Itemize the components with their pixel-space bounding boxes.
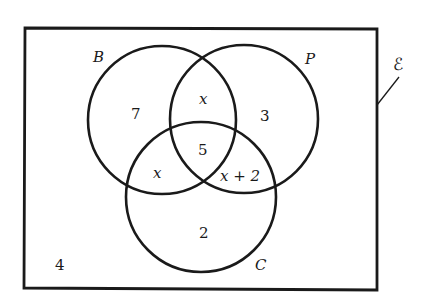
region-b-only: 7 [131, 105, 141, 123]
set-b-circle [88, 46, 236, 194]
universal-set-symbol: ℰ [393, 54, 403, 74]
region-b-p-c: 5 [198, 141, 208, 159]
set-p-label: P [304, 50, 316, 68]
region-b-and-c-only: x [153, 164, 162, 182]
region-b-and-p-only: x [199, 90, 208, 108]
set-b-label: B [92, 48, 104, 66]
universal-set-rectangle [24, 28, 377, 290]
universal-set-leader-line [377, 77, 399, 105]
region-c-only: 2 [199, 224, 209, 242]
set-c-label: C [255, 256, 267, 274]
region-p-only: 3 [260, 107, 270, 125]
region-p-and-c-only: x + 2 [220, 167, 260, 185]
region-outside: 4 [55, 256, 65, 274]
venn-diagram: ℰ B P C 7 3 2 x x x + 2 5 4 [0, 0, 428, 305]
